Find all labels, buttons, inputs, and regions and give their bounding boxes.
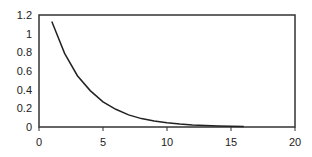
y-tick-label: 0	[26, 121, 32, 133]
y-tick-label: 1.2	[17, 9, 32, 21]
y-tick-label: 0.8	[17, 46, 32, 58]
x-axis-ticks: 05101520	[36, 127, 301, 148]
x-tick-label: 15	[225, 136, 237, 148]
x-tick-label: 20	[289, 136, 301, 148]
x-tick-label: 0	[36, 136, 42, 148]
y-tick-label: 0.6	[17, 65, 32, 77]
y-tick-label: 1	[26, 28, 32, 40]
x-tick-label: 10	[161, 136, 173, 148]
y-tick-label: 0.2	[17, 102, 32, 114]
plot-area	[39, 15, 295, 127]
x-tick-label: 5	[100, 136, 106, 148]
y-tick-label: 0.4	[17, 84, 32, 96]
y-axis-ticks: 00.20.40.60.811.2	[17, 9, 32, 133]
line-chart: 00.20.40.60.811.2 05101520	[0, 0, 312, 157]
